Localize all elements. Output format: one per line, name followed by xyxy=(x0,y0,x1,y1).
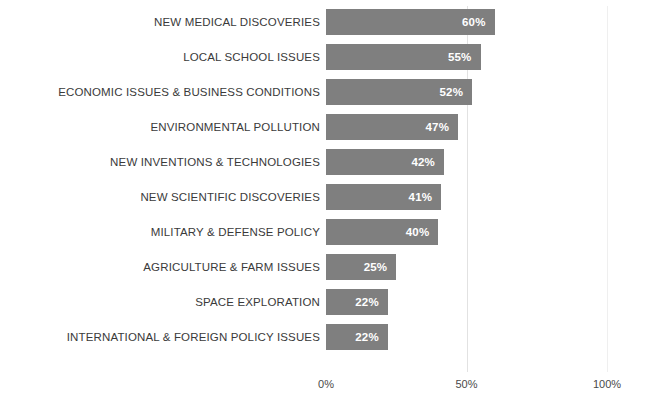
bar[interactable]: 22% xyxy=(326,324,388,350)
category-label: NEW MEDICAL DISCOVERIES xyxy=(154,9,320,35)
bar-track: 52% xyxy=(326,79,645,105)
bar-value-label: 40% xyxy=(406,219,439,245)
category-label: AGRICULTURE & FARM ISSUES xyxy=(143,254,320,280)
x-tick-label: 100% xyxy=(593,378,621,390)
bar-track: 47% xyxy=(326,114,645,140)
category-label: SPACE EXPLORATION xyxy=(195,289,320,315)
bar[interactable]: 60% xyxy=(326,9,495,35)
bar[interactable]: 25% xyxy=(326,254,396,280)
category-label: LOCAL SCHOOL ISSUES xyxy=(183,44,320,70)
bar-track: 25% xyxy=(326,254,645,280)
bar-track: 41% xyxy=(326,184,645,210)
bar-track: 40% xyxy=(326,219,645,245)
x-tick-label: 50% xyxy=(455,378,477,390)
category-label: ENVIRONMENTAL POLLUTION xyxy=(150,114,320,140)
bar[interactable]: 47% xyxy=(326,114,458,140)
x-axis: 0%50%100% xyxy=(0,372,645,402)
category-label: NEW SCIENTIFIC DISCOVERIES xyxy=(140,184,320,210)
bar-row: INTERNATIONAL & FOREIGN POLICY ISSUES22% xyxy=(0,324,645,350)
bar[interactable]: 55% xyxy=(326,44,481,70)
bar-row: ENVIRONMENTAL POLLUTION47% xyxy=(0,114,645,140)
bar-value-label: 60% xyxy=(462,9,495,35)
bar-track: 55% xyxy=(326,44,645,70)
bar-chart: NEW MEDICAL DISCOVERIES60%LOCAL SCHOOL I… xyxy=(0,0,645,409)
bar-value-label: 47% xyxy=(425,114,458,140)
bar[interactable]: 41% xyxy=(326,184,441,210)
category-label: MILITARY & DEFENSE POLICY xyxy=(151,219,320,245)
bar-track: 42% xyxy=(326,149,645,175)
bar-value-label: 41% xyxy=(409,184,442,210)
bar-row: MILITARY & DEFENSE POLICY40% xyxy=(0,219,645,245)
bar-rows: NEW MEDICAL DISCOVERIES60%LOCAL SCHOOL I… xyxy=(0,9,645,359)
bar-value-label: 42% xyxy=(411,149,444,175)
bar-row: NEW INVENTIONS & TECHNOLOGIES42% xyxy=(0,149,645,175)
bar-row: LOCAL SCHOOL ISSUES55% xyxy=(0,44,645,70)
category-label: NEW INVENTIONS & TECHNOLOGIES xyxy=(110,149,320,175)
bar-track: 22% xyxy=(326,324,645,350)
bar-row: NEW MEDICAL DISCOVERIES60% xyxy=(0,9,645,35)
bar-value-label: 22% xyxy=(355,289,388,315)
bar-value-label: 22% xyxy=(355,324,388,350)
bar-row: ECONOMIC ISSUES & BUSINESS CONDITIONS52% xyxy=(0,79,645,105)
bar[interactable]: 40% xyxy=(326,219,438,245)
category-label: ECONOMIC ISSUES & BUSINESS CONDITIONS xyxy=(58,79,320,105)
bar-row: AGRICULTURE & FARM ISSUES25% xyxy=(0,254,645,280)
bar[interactable]: 52% xyxy=(326,79,472,105)
bar-value-label: 25% xyxy=(364,254,397,280)
bar-row: NEW SCIENTIFIC DISCOVERIES41% xyxy=(0,184,645,210)
bar-value-label: 52% xyxy=(439,79,472,105)
bar-track: 60% xyxy=(326,9,645,35)
category-label: INTERNATIONAL & FOREIGN POLICY ISSUES xyxy=(67,324,320,350)
bar-track: 22% xyxy=(326,289,645,315)
bar-value-label: 55% xyxy=(448,44,481,70)
bar-row: SPACE EXPLORATION22% xyxy=(0,289,645,315)
bar[interactable]: 22% xyxy=(326,289,388,315)
bar[interactable]: 42% xyxy=(326,149,444,175)
x-tick-label: 0% xyxy=(318,378,334,390)
